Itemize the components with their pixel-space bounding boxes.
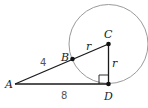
label-d: D <box>103 90 113 103</box>
point-c <box>106 42 111 47</box>
label-ad-length: 8 <box>61 90 67 101</box>
geometry-diagram: A B C D r r 4 8 <box>0 0 148 108</box>
label-cd-r: r <box>112 57 118 70</box>
label-ab-length: 4 <box>40 57 46 68</box>
label-bc-r: r <box>86 40 92 53</box>
segment-ac <box>15 44 109 84</box>
point-d <box>106 82 111 87</box>
label-a: A <box>4 78 13 91</box>
point-b <box>70 57 75 62</box>
label-b: B <box>60 51 69 64</box>
label-c: C <box>104 28 113 41</box>
